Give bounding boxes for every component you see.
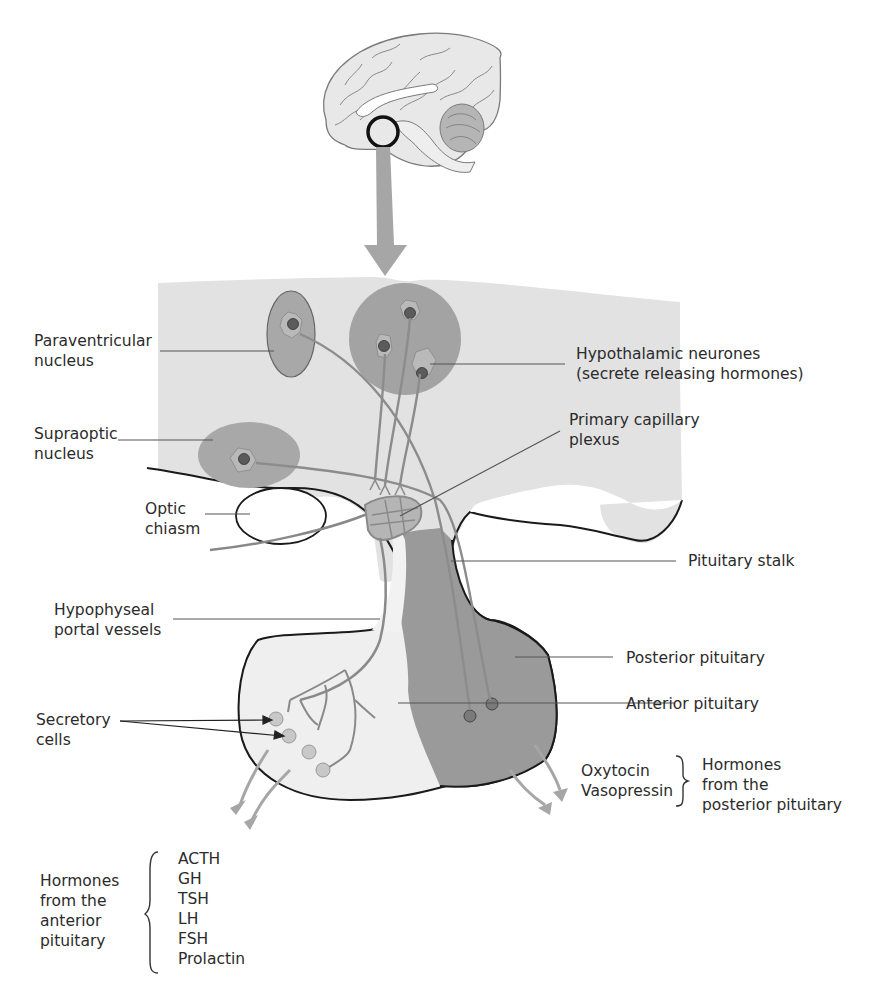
label-line: Hormones [702,755,842,775]
label-line: (secrete releasing hormones) [576,364,804,384]
hypothalamic-neurone-cluster [349,283,461,395]
hormone-item: GH [178,869,245,889]
posterior-hormone-group-label: Hormones from the posterior pituitary [702,755,842,815]
hormone-item: ACTH [178,849,245,869]
hormone-item: Prolactin [178,949,245,969]
label-line: anterior [40,911,119,931]
label-line: Hypothalamic neurones [576,344,804,364]
label-optic-chiasm: Optic chiasm [145,499,200,539]
anterior-hormone-group-label: Hormones from the anterior pituitary [40,871,119,951]
label-supraoptic-nucleus: Supraoptic nucleus [34,424,118,464]
label-line: from the [40,891,119,911]
label-line: Primary capillary [569,410,700,430]
label-line: Paraventricular [34,331,152,351]
label-line: Optic [145,499,200,519]
label-pituitary-stalk: Pituitary stalk [688,551,795,571]
label-line: Hormones [40,871,119,891]
label-anterior-pituitary: Anterior pituitary [626,694,759,714]
label-primary-capillary-plexus: Primary capillary plexus [569,410,700,450]
label-line: plexus [569,430,700,450]
label-line: Supraoptic [34,424,118,444]
hormone-item: FSH [178,929,245,949]
posterior-hormone-list: Oxytocin Vasopressin [581,761,673,801]
hormone-item: TSH [178,889,245,909]
hormone-item: LH [178,909,245,929]
label-line: cells [36,730,111,750]
zoom-arrow-icon [364,147,407,276]
label-line: Secretory [36,710,111,730]
anterior-hormone-list: ACTH GH TSH LH FSH Prolactin [178,849,245,969]
label-line: pituitary [40,931,119,951]
hypothalamus-pituitary-diagram [0,0,873,1005]
label-paraventricular-nucleus: Paraventricular nucleus [34,331,152,371]
label-hypothalamic-neurones: Hypothalamic neurones (secrete releasing… [576,344,804,384]
hormone-item: Oxytocin [581,761,673,781]
label-line: from the [702,775,842,795]
label-line: portal vessels [54,620,161,640]
label-secretory-cells: Secretory cells [36,710,111,750]
label-line: nucleus [34,444,118,464]
brain-illustration [324,33,501,172]
label-hypophyseal-portal-vessels: Hypophyseal portal vessels [54,600,161,640]
label-line: Hypophyseal [54,600,161,620]
pituitary-gland [239,500,557,800]
hormone-item: Vasopressin [581,781,673,801]
label-line: posterior pituitary [702,795,842,815]
label-line: chiasm [145,519,200,539]
label-line: nucleus [34,351,152,371]
label-posterior-pituitary: Posterior pituitary [626,648,765,668]
